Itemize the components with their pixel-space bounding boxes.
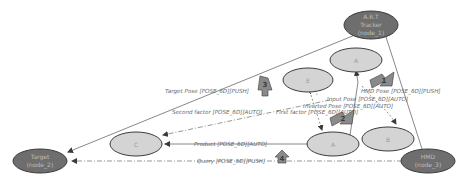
label-input-pose: Input Pose [POSE_6D][AUTO] — [327, 96, 408, 103]
node-art-tracker-line1: A.R.T — [363, 13, 379, 20]
node-art-tracker-line3: (node_1) — [358, 29, 384, 37]
label-product: Product [POSE_6D][AUTO] — [194, 141, 267, 148]
node-e[interactable]: E — [283, 68, 333, 92]
label-first-factor: First factor [POSE_6D][AUTO] — [276, 109, 358, 116]
node-target-line1: Target — [30, 153, 50, 161]
badge-1: 1 — [370, 72, 394, 88]
badge-4-text: 4 — [280, 155, 285, 163]
badge-2-text: 2 — [341, 115, 346, 123]
node-art-tracker-line2: Tracker — [359, 21, 382, 28]
node-c-label: C — [134, 141, 138, 148]
node-art-tracker[interactable]: A.R.T Tracker (node_1) — [344, 11, 398, 39]
node-a-top[interactable]: A — [330, 48, 382, 72]
node-b[interactable]: B — [362, 127, 414, 151]
node-target-line2: (node_2) — [27, 161, 53, 169]
node-hmd[interactable]: HMD (node_3) — [401, 149, 455, 173]
label-target-pose: Target Pose [POSE_6D][PUSH] — [165, 88, 249, 95]
label-second-factor: Second factor [POSE_6D][AUTO] — [172, 109, 263, 116]
node-c[interactable]: C — [110, 132, 162, 156]
node-hmd-line1: HMD — [421, 153, 436, 160]
badge-1-text: 1 — [382, 77, 387, 85]
node-e-label: E — [306, 77, 310, 84]
node-a-bottom[interactable]: A — [307, 132, 359, 156]
badge-3: 3 — [258, 76, 272, 96]
badge-3-text: 3 — [263, 81, 268, 89]
node-b-label: B — [386, 136, 390, 143]
diagram-canvas: A.R.T Tracker (node_1) A E C A B Target … — [0, 0, 465, 185]
node-hmd-line2: (node_3) — [415, 161, 441, 169]
label-hmd-pose: HMD Pose [POSE_6D][PUSH] — [361, 88, 441, 95]
label-query: Query [POSE_6D][PUSH] — [197, 158, 265, 165]
node-target[interactable]: Target (node_2) — [13, 149, 67, 173]
